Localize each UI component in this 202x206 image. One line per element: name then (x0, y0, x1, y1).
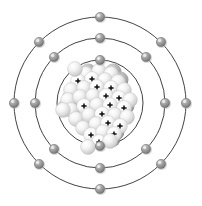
electron-shell-3 (156, 159, 167, 170)
neutron-sphere (68, 62, 83, 77)
electron-shell-3 (95, 184, 106, 195)
neutron-sphere (81, 140, 96, 155)
neutron-sphere (56, 103, 71, 118)
electron-shell-2 (160, 98, 171, 109)
electron-shell-2 (95, 33, 106, 44)
electron-shell-2 (141, 144, 152, 155)
electron-shell-2 (49, 52, 60, 63)
electron-shell-1 (95, 55, 106, 66)
atom-diagram-canvas (0, 0, 202, 206)
electron-shell-2 (95, 163, 106, 174)
electron-shell-3 (156, 37, 167, 48)
electron-shell-2 (141, 52, 152, 63)
electron-shell-3 (34, 37, 45, 48)
electron-shell-3 (9, 98, 20, 109)
atom-diagram (0, 0, 202, 206)
electron-shell-3 (34, 159, 45, 170)
electron-shell-3 (181, 98, 192, 109)
electron-shell-2 (30, 98, 41, 109)
electron-shell-3 (95, 12, 106, 23)
electron-shell-2 (49, 144, 60, 155)
electron-shell-1 (95, 141, 106, 152)
